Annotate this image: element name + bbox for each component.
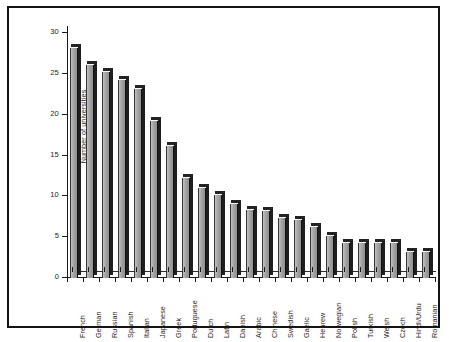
x-tick-label: Latin bbox=[222, 322, 231, 338]
bar-top-face bbox=[295, 216, 304, 219]
x-tick-mark-back bbox=[424, 267, 425, 272]
bar bbox=[150, 118, 157, 278]
bar-top-face bbox=[343, 239, 352, 242]
bar-top-face bbox=[151, 117, 160, 120]
x-tick-mark bbox=[371, 277, 372, 282]
x-tick-label: Japanese bbox=[158, 306, 167, 338]
bar-side-face bbox=[430, 249, 433, 275]
bar-side-face bbox=[414, 249, 417, 275]
x-tick-label: Czech bbox=[398, 317, 407, 338]
bar bbox=[198, 185, 205, 278]
bar-front-face bbox=[118, 80, 125, 278]
bar-front-face bbox=[422, 252, 429, 278]
x-tick-label: Danish bbox=[238, 315, 247, 338]
bar-top-face bbox=[327, 232, 336, 235]
bar-front-face bbox=[214, 195, 221, 278]
x-tick-mark bbox=[179, 277, 180, 282]
x-tick-label: Turkish bbox=[366, 314, 375, 338]
x-tick-mark-back bbox=[344, 267, 345, 272]
bar-side-face bbox=[270, 208, 273, 275]
x-tick-mark-back bbox=[408, 267, 409, 272]
bar-front-face bbox=[342, 243, 349, 278]
y-tick-label: 25 bbox=[19, 69, 59, 77]
bar-front-face bbox=[166, 146, 173, 278]
bar-front-face bbox=[390, 243, 397, 278]
x-tick-label: Chinese bbox=[270, 311, 279, 338]
bar-side-face bbox=[318, 224, 321, 275]
x-tick-mark bbox=[147, 277, 148, 282]
bar-side-face bbox=[206, 185, 209, 275]
x-tick-mark bbox=[387, 277, 388, 282]
bar-top-face bbox=[71, 44, 80, 47]
bar-front-face bbox=[134, 89, 141, 278]
x-tick-mark-back bbox=[152, 267, 153, 272]
y-tick-label: 0 bbox=[19, 273, 59, 281]
bar-side-face bbox=[334, 233, 337, 275]
x-tick-mark bbox=[131, 277, 132, 282]
bar bbox=[102, 69, 109, 278]
bar-front-face bbox=[406, 252, 413, 278]
x-tick-mark-back bbox=[72, 267, 73, 272]
bar-front-face bbox=[198, 188, 205, 278]
x-tick-mark-back bbox=[360, 267, 361, 272]
x-tick-mark bbox=[227, 277, 228, 282]
bar-top-face bbox=[391, 239, 400, 242]
bar-side-face bbox=[366, 240, 369, 275]
x-tick-mark bbox=[275, 277, 276, 282]
x-axis-tick-labels: FrenchGermanRussianSpanishItalianJapanes… bbox=[67, 284, 447, 342]
x-tick-mark bbox=[195, 277, 196, 282]
x-tick-label: Dutch bbox=[206, 319, 215, 338]
bar-front-face bbox=[182, 178, 189, 278]
bar-top-face bbox=[247, 206, 256, 209]
x-tick-mark bbox=[115, 277, 116, 282]
bar-top-face bbox=[199, 184, 208, 187]
bar bbox=[374, 240, 381, 278]
bar-top-face bbox=[359, 239, 368, 242]
x-tick-mark bbox=[323, 277, 324, 282]
bar-front-face bbox=[86, 65, 93, 278]
x-tick-mark bbox=[99, 277, 100, 282]
bar-side-face bbox=[222, 192, 225, 275]
x-tick-mark-back bbox=[232, 267, 233, 272]
x-tick-mark bbox=[291, 277, 292, 282]
bar-side-face bbox=[142, 86, 145, 275]
x-tick-mark-back bbox=[248, 267, 249, 272]
x-tick-label: Polish bbox=[350, 318, 359, 338]
x-tick-mark bbox=[211, 277, 212, 282]
x-tick-label: Hebrew bbox=[318, 313, 327, 338]
bar-top-face bbox=[311, 223, 320, 226]
x-tick-label: Welsh bbox=[382, 318, 391, 338]
x-tick-mark bbox=[243, 277, 244, 282]
bar-side-face bbox=[94, 62, 97, 275]
x-tick-mark-back bbox=[136, 267, 137, 272]
x-tick-mark-back bbox=[216, 267, 217, 272]
bar bbox=[134, 86, 141, 278]
bar-front-face bbox=[358, 243, 365, 278]
x-tick-label: Spanish bbox=[126, 311, 135, 338]
x-tick-label: Russian bbox=[110, 311, 119, 338]
bar-side-face bbox=[254, 207, 257, 275]
x-tick-label: Norwegian bbox=[334, 303, 343, 338]
bar-side-face bbox=[158, 118, 161, 275]
x-tick-mark bbox=[259, 277, 260, 282]
x-tick-label: Hindi/Urdu bbox=[414, 303, 423, 338]
bar-top-face bbox=[215, 191, 224, 194]
bar-front-face bbox=[374, 243, 381, 278]
plot-area: Number of universities 051015202530 bbox=[67, 26, 435, 277]
x-tick-mark-back bbox=[296, 267, 297, 272]
x-tick-mark bbox=[339, 277, 340, 282]
x-tick-label: French bbox=[78, 315, 87, 338]
bar-front-face bbox=[150, 121, 157, 278]
x-tick-mark-back bbox=[88, 267, 89, 272]
x-tick-mark bbox=[355, 277, 356, 282]
x-tick-mark-back bbox=[264, 267, 265, 272]
bar-side-face bbox=[126, 77, 129, 275]
x-tick-mark bbox=[163, 277, 164, 282]
bar-side-face bbox=[286, 215, 289, 275]
x-tick-mark-back bbox=[376, 267, 377, 272]
x-tick-mark-back bbox=[104, 267, 105, 272]
bar bbox=[118, 77, 125, 278]
bar bbox=[390, 240, 397, 278]
x-tick-mark bbox=[67, 277, 68, 282]
